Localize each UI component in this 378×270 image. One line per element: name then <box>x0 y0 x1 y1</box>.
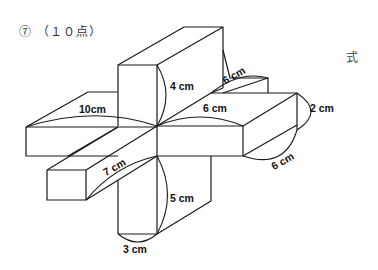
bottom-block <box>118 126 211 242</box>
label-bottom-width: 3 cm <box>123 243 147 255</box>
label-right-depth: 6 cm <box>269 150 296 172</box>
label-top-height: 4 cm <box>170 80 194 92</box>
front-block <box>47 126 157 200</box>
cross-solid-figure: 4 cm 6 cm 6 cm 2 cm 6 cm 10cm 7 cm 5 cm … <box>0 0 378 270</box>
left-block <box>26 92 157 156</box>
label-top-right-depth: 6 cm <box>220 64 247 86</box>
label-left-length: 10cm <box>79 103 106 115</box>
label-right-length: 6 cm <box>203 102 227 114</box>
label-right-height: 2 cm <box>310 102 334 114</box>
label-bottom-height: 5 cm <box>170 192 194 204</box>
right-block <box>157 93 311 160</box>
